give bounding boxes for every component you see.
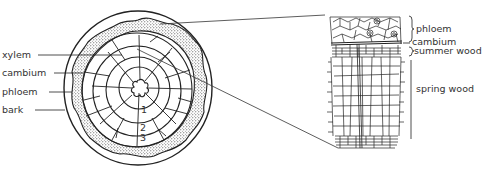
- label-phloem: phloem: [2, 87, 38, 97]
- label-detail-phloem: phloem: [416, 24, 452, 34]
- label-detail-spring-wood: spring wood: [416, 84, 474, 94]
- ring-number-1: 1: [141, 105, 147, 115]
- label-xylem: xylem: [2, 50, 31, 60]
- label-cambium: cambium: [2, 68, 46, 78]
- magnified-wood-section: [327, 17, 405, 148]
- ring-number-3: 3: [140, 133, 146, 143]
- label-bark: bark: [2, 105, 23, 115]
- right-braces: [403, 16, 414, 139]
- label-detail-summer-wood: summer wood: [414, 46, 482, 56]
